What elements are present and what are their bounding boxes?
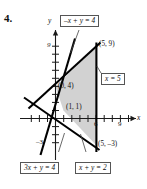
point-label-1-1: (1, 1) (66, 104, 82, 111)
coordinate-plane-graph (0, 0, 147, 189)
point-label-5-neg3: (5, –3) (98, 141, 117, 148)
x-axis-label: x (137, 114, 140, 121)
y-axis-label: y (48, 17, 51, 24)
figure-container: 4. (0, 0, 147, 189)
equation-label-x-eq-5: x = 5 (101, 73, 125, 85)
point-label-5-9: (5, 9) (99, 41, 115, 48)
equation-label-x-plus-y-eq-2: x + y = 2 (75, 162, 111, 174)
equation-label-neg-x-plus-y-eq-4: –x + y = 4 (60, 15, 99, 27)
shaded-feasible-region (56, 47, 97, 146)
y-tick-label-9: 9 (47, 42, 51, 49)
y-tick-label-neg3: –3 (36, 139, 43, 146)
equation-label-3x-plus-y-eq-4: 3x + y = 4 (20, 162, 59, 174)
x-tick-label-9: 9 (118, 121, 122, 128)
point-label-0-4: (0, 4) (58, 83, 74, 90)
x-tick-label-6: 6 (94, 121, 98, 128)
